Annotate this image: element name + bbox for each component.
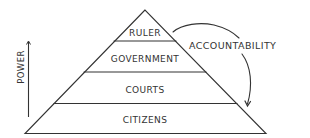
tier-label-ruler: RULER (129, 28, 161, 38)
curved-arrow-lower (242, 54, 251, 104)
accountability-arrow (173, 24, 251, 106)
tier-label-courts: COURTS (125, 85, 164, 95)
curved-arrow-upper (173, 24, 239, 38)
power-pyramid-diagram: RULER GOVERNMENT COURTS CITIZENS POWER A… (0, 0, 310, 138)
tier-label-government: GOVERNMENT (111, 54, 180, 64)
power-axis: POWER (16, 41, 31, 117)
power-axis-label: POWER (16, 50, 26, 84)
accountability-label: ACCOUNTABILITY (189, 40, 276, 51)
tier-label-citizens: CITIZENS (123, 115, 168, 125)
